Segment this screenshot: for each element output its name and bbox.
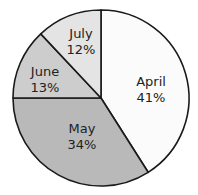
may-percent: 34%: [68, 137, 97, 152]
july-label: July: [68, 26, 93, 41]
june-label: June: [30, 64, 59, 79]
july-percent: 12%: [67, 42, 96, 57]
slice-label-june: June 13%: [30, 64, 60, 95]
april-label: April: [136, 74, 166, 89]
june-percent: 13%: [31, 80, 60, 95]
pie-chart: April 41% May 34% June 13% July 12%: [0, 0, 198, 195]
slice-label-april: April 41%: [136, 74, 166, 105]
april-percent: 41%: [137, 90, 166, 105]
may-label: May: [69, 121, 96, 136]
slice-label-may: May 34%: [68, 121, 97, 152]
slice-label-july: July 12%: [67, 26, 96, 57]
